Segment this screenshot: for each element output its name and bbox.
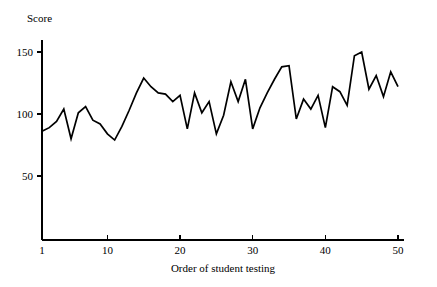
x-tick-label: 10	[102, 244, 114, 256]
x-tick-label: 1	[39, 244, 45, 256]
score-series-line	[42, 52, 398, 140]
y-tick-label: 50	[22, 170, 34, 182]
x-axis-title: Order of student testing	[171, 262, 276, 274]
y-axis-ticks: 50100150	[17, 46, 43, 182]
x-tick-label: 40	[320, 244, 332, 256]
y-axis-title: Score	[27, 12, 52, 24]
chart-figure: Score 50100150 11020304050 Order of stud…	[0, 0, 437, 287]
x-axis-ticks: 11020304050	[39, 235, 404, 256]
line-chart: Score 50100150 11020304050 Order of stud…	[0, 0, 437, 287]
x-tick-label: 30	[247, 244, 259, 256]
y-tick-label: 100	[17, 108, 34, 120]
x-tick-label: 20	[175, 244, 187, 256]
x-tick-label: 50	[393, 244, 405, 256]
y-tick-label: 150	[17, 46, 34, 58]
